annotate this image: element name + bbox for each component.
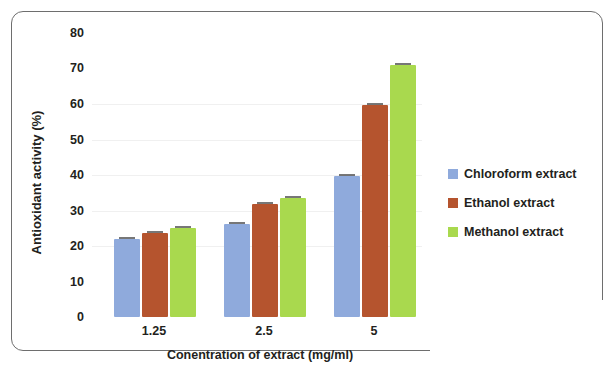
y-tick-40: 40: [40, 169, 84, 182]
y-tick-0: 0: [40, 311, 84, 324]
bar-chloroform-2.5[interactable]: [224, 224, 250, 317]
legend-label-ethanol: Ethanol extract: [464, 196, 554, 210]
bar-ethanol-5[interactable]: [362, 105, 388, 317]
y-tick-70: 70: [40, 62, 84, 75]
y-tick-10: 10: [40, 276, 84, 289]
x-tick-2: 2.5: [210, 324, 318, 338]
bar-chloroform-5[interactable]: [334, 176, 360, 317]
legend-swatch-ethanol: [448, 198, 458, 208]
frame-mask: [430, 345, 606, 372]
y-tick-20: 20: [40, 240, 84, 253]
bar-group-5: [320, 0, 428, 372]
bar-methanol-2.5[interactable]: [280, 198, 306, 317]
bar-ethanol-1.25[interactable]: [142, 233, 168, 317]
y-tick-50: 50: [40, 134, 84, 147]
y-tick-60: 60: [40, 98, 84, 111]
legend-item-ethanol[interactable]: Ethanol extract: [448, 196, 598, 210]
legend-swatch-chloroform: [448, 169, 458, 179]
x-axis-title: Conentration of extract (mg/ml): [60, 348, 460, 362]
bar-group-2.5: [210, 0, 318, 372]
legend-item-methanol[interactable]: Methanol extract: [448, 225, 598, 239]
legend-label-chloroform: Chloroform extract: [464, 167, 577, 181]
y-axis-ticks: 80 70 60 50 40 30 20 10 0: [28, 0, 84, 372]
bar-group-1.25: [100, 0, 208, 372]
y-tick-80: 80: [40, 27, 84, 40]
bar-chloroform-1.25[interactable]: [114, 239, 140, 317]
y-tick-30: 30: [40, 205, 84, 218]
bar-ethanol-2.5[interactable]: [252, 204, 278, 317]
bar-methanol-5[interactable]: [390, 65, 416, 317]
x-tick-1: 1.25: [100, 324, 208, 338]
bar-methanol-1.25[interactable]: [170, 228, 196, 317]
legend-label-methanol: Methanol extract: [464, 225, 563, 239]
legend-item-chloroform[interactable]: Chloroform extract: [448, 167, 598, 181]
x-tick-3: 5: [320, 324, 428, 338]
chart-legend: Chloroform extract Ethanol extract Metha…: [448, 167, 598, 254]
plot-area: 1.25 2.5 5: [92, 0, 422, 372]
legend-swatch-methanol: [448, 227, 458, 237]
